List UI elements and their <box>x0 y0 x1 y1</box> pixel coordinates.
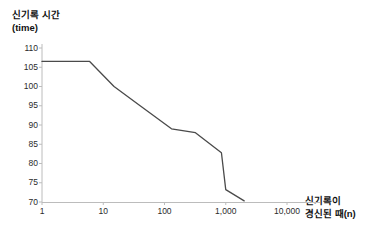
data-series-line <box>42 61 244 200</box>
record-time-line-chart: 신기록 시간 (time) 신기록이 경신된 때(n) 110105100959… <box>0 0 371 233</box>
plot-area <box>0 0 371 233</box>
